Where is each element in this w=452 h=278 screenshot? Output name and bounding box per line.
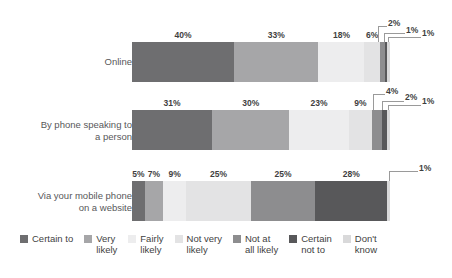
segment-value-label: 30% [242,98,259,108]
bar-segment-not-at-all-likely[interactable]: 25% [251,181,316,221]
leader-line-vertical [384,33,385,42]
segment-value-label: 25% [274,169,291,179]
chart-row-online: Online 40% 33% 18% 6% 2% 1% 1% [0,42,452,82]
legend-label: Not at all likely [245,233,278,255]
bar-segment-not-at-all-likely[interactable] [372,110,382,150]
bar-segment-very-likely[interactable]: 33% [234,42,318,82]
legend-swatch-icon [84,235,92,243]
legend-swatch-icon [289,235,297,243]
leader-line-horizontal [388,37,421,38]
segment-value-label: 40% [175,30,192,40]
chart-row-by-phone: By phone speaking to a person 31% 30% 23… [0,110,452,150]
segment-value-label: 33% [268,30,285,40]
legend-swatch-icon [175,235,183,243]
bar-segment-not-very-likely[interactable]: 9% [349,110,372,150]
legend-swatch-icon [233,235,241,243]
legend-item-not-very-likely[interactable]: Not very likely [175,233,222,255]
chart-row-mobile-website: Via your mobile phone on a website 5% 7%… [0,181,452,221]
segment-value-label: 28% [343,169,360,179]
legend-label: Don't know [355,233,377,255]
legend-label: Certain not to [301,233,332,255]
leader-line-vertical [389,171,390,181]
leader-line-horizontal [382,101,404,102]
segment-value-label: 25% [210,169,227,179]
legend-label: Fairly likely [140,233,163,255]
bar-segment-fairly-likely[interactable]: 18% [318,42,364,82]
callout-not-at-all-likely: 2% [388,18,400,28]
callout-certain-not-to: 2% [405,92,417,102]
legend-item-very-likely[interactable]: Very likely [84,233,117,255]
legend-swatch-icon [128,235,136,243]
legend: Certain to Very likely Fairly likely Not… [20,233,440,255]
bar-track-by-phone: 31% 30% 23% 9% [132,110,390,150]
bar-segment-certain-to[interactable]: 40% [132,42,234,82]
bar-segment-certain-to[interactable]: 31% [132,110,212,150]
bar-segment-dont-know[interactable] [387,110,390,150]
segment-value-label: 5% [132,169,144,179]
segment-value-label: 7% [148,169,160,179]
bar-segment-dont-know[interactable] [387,181,390,221]
leader-line-vertical [373,94,374,110]
bar-segment-fairly-likely[interactable]: 9% [163,181,186,221]
callout-dont-know: 1% [422,96,434,106]
legend-label: Not very likely [187,233,222,255]
bar-segment-fairly-likely[interactable]: 23% [289,110,348,150]
category-label-online: Online [2,56,132,68]
bar-track-online: 40% 33% 18% 6% [132,42,390,82]
legend-item-fairly-likely[interactable]: Fairly likely [128,233,163,255]
segment-value-label: 18% [333,30,350,40]
leader-line-horizontal [373,94,385,95]
legend-item-dont-know[interactable]: Don't know [343,233,377,255]
bar-segment-very-likely[interactable]: 7% [145,181,163,221]
leader-line-vertical [382,101,383,110]
category-label-by-phone: By phone speaking to a person [2,119,132,142]
bar-segment-certain-not-to[interactable]: 28% [315,181,387,221]
legend-item-certain-not-to[interactable]: Certain not to [289,233,332,255]
leader-line-horizontal [384,33,405,34]
stacked-bar-chart: Online 40% 33% 18% 6% 2% 1% 1% [0,0,452,278]
callout-certain-not-to: 1% [406,25,418,35]
leader-line-horizontal [378,26,387,27]
bar-segment-dont-know[interactable] [387,42,390,82]
legend-item-certain-to[interactable]: Certain to [20,233,73,244]
segment-value-label: 31% [163,98,180,108]
category-label-mobile-website: Via your mobile phone on a website [2,190,132,213]
bar-segment-not-very-likely[interactable]: 25% [186,181,251,221]
legend-swatch-icon [343,235,351,243]
legend-label: Very likely [96,233,117,255]
callout-dont-know: 1% [422,28,434,38]
legend-item-not-at-all-likely[interactable]: Not at all likely [233,233,278,255]
leader-line-horizontal [389,171,418,172]
segment-value-label: 6% [366,30,378,40]
callout-not-at-all-likely: 4% [386,86,398,96]
segment-value-label: 9% [168,169,180,179]
callout-dont-know: 1% [419,163,431,173]
bar-segment-very-likely[interactable]: 30% [212,110,289,150]
segment-value-label: 23% [311,98,328,108]
leader-line-vertical [378,26,379,42]
legend-label: Certain to [32,233,73,244]
bar-segment-certain-to[interactable]: 5% [132,181,145,221]
segment-value-label: 9% [354,98,366,108]
bar-track-mobile-website: 5% 7% 9% 25% 25% 28% [132,181,390,221]
legend-swatch-icon [20,235,28,243]
bar-segment-not-very-likely[interactable]: 6% [364,42,379,82]
leader-line-horizontal [388,105,421,106]
